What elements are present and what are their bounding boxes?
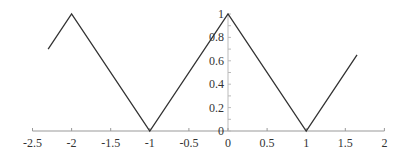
x-tick-label: 1.5 [338, 136, 353, 150]
y-tick-label: 0.2 [209, 101, 224, 115]
x-tick-label: 0.5 [260, 136, 275, 150]
x-tick-label: -1.5 [101, 136, 120, 150]
y-tick-label: 0.4 [209, 77, 224, 91]
x-tick-label: 2 [381, 136, 387, 150]
y-tick-label: 0 [218, 124, 224, 138]
y-tick-label: 0.8 [209, 30, 224, 44]
x-tick-label: -1 [145, 136, 155, 150]
series-line [48, 14, 357, 131]
x-tick-label: -2.5 [23, 136, 42, 150]
y-tick-label: 1 [218, 7, 224, 21]
x-tick-label: -2 [67, 136, 77, 150]
x-tick-label: -0.5 [179, 136, 198, 150]
plot-area: -2.5-2-1.5-1-0.500.511.5200.20.40.60.81 [0, 0, 406, 156]
triangle-wave-chart: -2.5-2-1.5-1-0.500.511.5200.20.40.60.81 [0, 0, 406, 156]
x-tick-label: 1 [303, 136, 309, 150]
y-tick-label: 0.6 [209, 54, 224, 68]
x-tick-label: 0 [225, 136, 231, 150]
